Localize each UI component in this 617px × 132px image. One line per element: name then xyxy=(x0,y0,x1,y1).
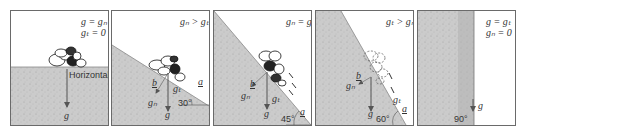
angle-b-label: b xyxy=(356,71,361,81)
equation-1: gₜ > gₙ xyxy=(386,17,414,27)
motion-lines xyxy=(389,73,394,93)
panel-slope-60-drawing xyxy=(316,11,413,125)
panel-slope-45: gₙ = gₜ b a gₜ gₙ g 45° xyxy=(213,10,312,126)
panel-slope-45-drawing xyxy=(214,11,311,125)
ground-surface xyxy=(316,11,406,125)
equation-1: gₙ = gₜ xyxy=(286,17,312,27)
equation-1: g = gₙ xyxy=(81,17,107,27)
angle-value: 30° xyxy=(178,98,192,108)
angle-a-label: a xyxy=(402,104,407,114)
angle-b-label: b xyxy=(152,78,157,88)
gt-label: gₜ xyxy=(272,94,280,104)
angle-value: 90° xyxy=(454,114,468,124)
g-label: g xyxy=(368,109,373,119)
equation-2: gₜ = 0 xyxy=(81,28,106,38)
motion-lines xyxy=(289,73,296,95)
panel-slope-60: gₜ > gₙ b a gₜ gₙ g 60° xyxy=(315,10,414,126)
equation-1: g = gₜ xyxy=(486,17,511,27)
g-label: g xyxy=(478,101,483,111)
panel-vertical: g = gₜ gₙ = 0 g 90° xyxy=(417,10,516,126)
angle-a-label: a xyxy=(300,107,305,117)
angle-value: 45° xyxy=(281,114,295,124)
equation-1: gₙ > gₜ xyxy=(180,17,209,27)
g-label: g xyxy=(264,109,269,119)
gn-label: gₙ xyxy=(241,91,250,101)
horizontal-label: Horizontal xyxy=(69,70,109,80)
g-label: g xyxy=(165,110,170,120)
gn-label: gₙ xyxy=(346,81,355,91)
angle-a-label: a xyxy=(198,77,203,87)
equation-2: gₙ = 0 xyxy=(486,28,512,38)
angle-value: 60° xyxy=(376,114,390,124)
gt-label: gₜ xyxy=(393,95,401,105)
panel-horizontal: g = gₙ gₜ = 0 Horizontal g xyxy=(10,10,109,126)
rock-pile-icon xyxy=(49,47,86,67)
gt-label: gₜ xyxy=(173,84,181,94)
angle-b-label: b xyxy=(250,79,255,89)
panel-slope-30: gₙ > gₜ b a gₜ gₙ g 30° xyxy=(111,10,210,126)
gn-label: gₙ xyxy=(148,98,157,108)
panel-slope-30-drawing xyxy=(112,11,209,125)
g-label: g xyxy=(64,111,69,121)
